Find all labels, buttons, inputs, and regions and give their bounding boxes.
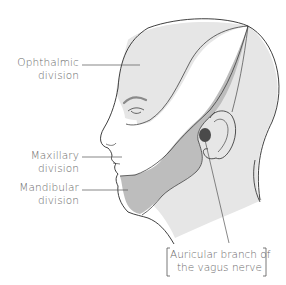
ophthalmic-label: Ophthalmic division [6, 56, 79, 82]
auricular-label-line1: Auricular branch of [170, 248, 262, 261]
ophthalmic-label-line2: division [6, 69, 79, 82]
maxillary-label-line1: Maxillary [6, 149, 79, 162]
maxillary-label: Maxillary division [6, 149, 79, 175]
mandibular-label-line2: division [6, 194, 79, 207]
head-innervation-diagram: Ophthalmic division Maxillary division M… [0, 0, 286, 285]
mandibular-label: Mandibular division [6, 181, 79, 207]
auricular-label-line2: the vagus nerve [170, 261, 262, 274]
head-illustration [0, 0, 286, 285]
ophthalmic-label-line1: Ophthalmic [6, 56, 79, 69]
auricular-label: Auricular branch of the vagus nerve [170, 248, 262, 274]
auricular-branch-spot [199, 128, 211, 142]
mandibular-label-line1: Mandibular [6, 181, 79, 194]
maxillary-label-line2: division [6, 162, 79, 175]
